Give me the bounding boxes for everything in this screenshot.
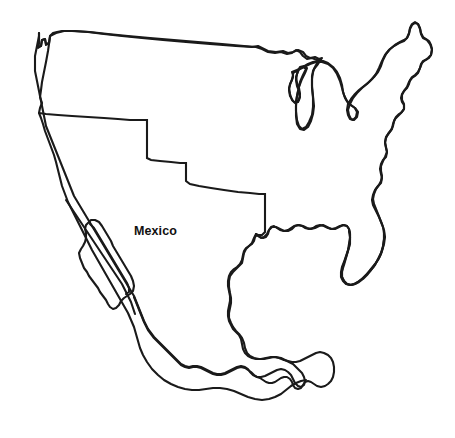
- map-svg: Mexico: [0, 0, 455, 438]
- maine-northeast-corner: [342, 22, 432, 285]
- great-lakes-outline: [256, 33, 409, 129]
- gulf-coast: [256, 225, 343, 238]
- canada-border: [50, 31, 256, 47]
- outline-map-canvas: Mexico: [0, 0, 455, 438]
- mexico-label: Mexico: [134, 224, 177, 238]
- mexico-east-coast: [229, 234, 284, 360]
- us-mexico-border: [39, 113, 265, 235]
